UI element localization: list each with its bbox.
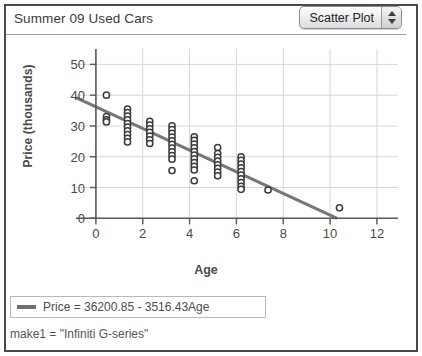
- y-axis-label: Price (thousands): [21, 41, 35, 191]
- legend-entry-label: Price = 36200.85 - 3516.43Age: [43, 300, 209, 314]
- status-bar: make1 = "Infiniti G-series": [10, 324, 400, 344]
- scatter-point[interactable]: [215, 173, 221, 179]
- y-axis-tick-label: 50: [70, 57, 84, 72]
- y-axis-tick-label: 0: [78, 211, 85, 226]
- scatter-point[interactable]: [336, 205, 342, 211]
- scatter-point[interactable]: [124, 139, 130, 145]
- scatter-point[interactable]: [191, 178, 197, 184]
- x-axis-tick-label: 10: [323, 226, 337, 241]
- triangle-down-icon[interactable]: [388, 19, 396, 24]
- scatter-point[interactable]: [191, 167, 197, 173]
- scatter-point[interactable]: [215, 144, 221, 150]
- x-axis-tick-label: 12: [370, 226, 384, 241]
- x-axis-tick-label: 4: [186, 226, 193, 241]
- scatter-plot-window: Summer 09 Used Cars Scatter Plot 0246810…: [0, 0, 422, 356]
- scatter-point[interactable]: [265, 187, 271, 193]
- x-axis-tick-label: 0: [92, 226, 99, 241]
- x-axis-tick-label: 6: [233, 226, 240, 241]
- scatter-point[interactable]: [169, 167, 175, 173]
- scatter-point[interactable]: [169, 156, 175, 162]
- x-axis-tick-label: 8: [280, 226, 287, 241]
- scatter-point[interactable]: [103, 119, 109, 125]
- y-axis-tick-label: 10: [70, 181, 84, 196]
- regression-line: [76, 98, 337, 219]
- y-axis-tick-label: 40: [70, 88, 84, 103]
- triangle-up-icon[interactable]: [388, 11, 396, 16]
- y-axis-tick-label: 30: [70, 119, 84, 134]
- y-axis-tick-label: 20: [70, 150, 84, 165]
- plot-canvas[interactable]: 02468101201020304050 Price (thousands) A…: [6, 34, 406, 290]
- scatter-chart: 02468101201020304050: [6, 35, 406, 260]
- scatter-point[interactable]: [103, 92, 109, 98]
- legend[interactable]: Price = 36200.85 - 3516.43Age: [10, 296, 266, 318]
- x-axis-tick-label: 2: [139, 226, 146, 241]
- page-title: Summer 09 Used Cars: [14, 11, 153, 26]
- scatter-point[interactable]: [238, 186, 244, 192]
- plot-type-value: Scatter Plot: [300, 7, 381, 28]
- plot-type-select[interactable]: Scatter Plot: [299, 6, 402, 29]
- plot-type-stepper[interactable]: [381, 7, 401, 28]
- x-axis-label: Age: [6, 263, 406, 277]
- status-message: make1 = "Infiniti G-series": [10, 327, 148, 341]
- scatter-point[interactable]: [147, 140, 153, 146]
- chart-header: Summer 09 Used Cars Scatter Plot: [6, 6, 406, 36]
- legend-line-swatch: [17, 305, 36, 309]
